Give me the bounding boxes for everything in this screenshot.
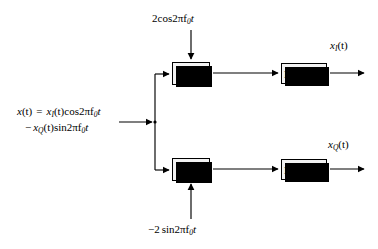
input-carrier-freq-2: 2πf	[67, 121, 82, 133]
lp-filter-top-label: LP Filter	[284, 68, 324, 80]
branch-junction-dot	[153, 120, 156, 123]
carrier-bottom-trig: sin	[162, 223, 175, 235]
input-xi-arg: (t)	[54, 105, 64, 117]
input-equals: =	[36, 105, 42, 117]
carrier-bottom-time: t	[193, 223, 196, 235]
carrier-bottom-amplitude: −2	[148, 223, 160, 235]
input-carrier-t: t	[97, 105, 100, 117]
mixer-bottom-block[interactable]: mixer	[172, 158, 210, 181]
carrier-top-time: t	[191, 12, 194, 24]
output-q-label: xQ(t)	[328, 137, 349, 153]
input-expression-line-1: x(t)=xI(t)cos2πf0t	[17, 104, 100, 120]
mixer-bottom-label: mixer	[178, 164, 204, 176]
carrier-top-label: 2cos2πf0t	[152, 11, 194, 27]
input-expression-line-2: −xQ(t)sin2πf0t	[17, 120, 100, 136]
input-minus: −	[25, 121, 31, 133]
input-carrier-freq: 2πf	[79, 105, 94, 117]
input-sin: sin	[54, 121, 67, 133]
carrier-top-frequency: 2πf	[172, 12, 187, 24]
lp-filter-bottom-label: LP Filter	[284, 164, 324, 176]
carrier-top-trig: cos	[158, 12, 173, 24]
input-xq-arg: (t)	[44, 121, 54, 133]
input-signal-expression: x(t)=xI(t)cos2πf0t −xQ(t)sin2πf0t	[17, 104, 100, 136]
output-i-arg: (t)	[337, 39, 347, 51]
mixer-top-label: mixer	[178, 68, 204, 80]
diagram-canvas: x(t)=xI(t)cos2πf0t −xQ(t)sin2πf0t 2cos2π…	[0, 0, 378, 249]
lp-filter-top-block[interactable]: LP Filter	[281, 63, 327, 84]
output-q-arg: (t)	[338, 138, 348, 150]
input-carrier-t-2: t	[85, 121, 88, 133]
input-x-arg: (t)	[22, 105, 32, 117]
output-i-label: xI(t)	[330, 38, 348, 54]
input-cos: cos	[64, 105, 79, 117]
carrier-bottom-label: −2sin2πf0t	[148, 222, 196, 238]
lp-filter-bottom-block[interactable]: LP Filter	[281, 159, 327, 180]
mixer-top-block[interactable]: mixer	[172, 62, 210, 85]
carrier-bottom-frequency: 2πf	[175, 223, 190, 235]
